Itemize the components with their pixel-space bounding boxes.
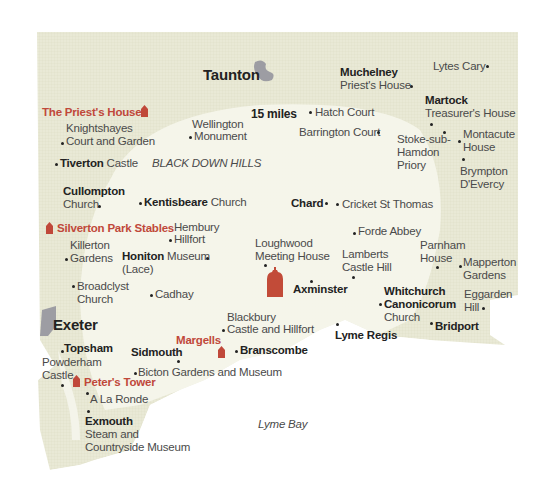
place-bicton: Bicton Gardens and Museum <box>138 366 282 379</box>
place-kentisbeare: Kentisbeare Church <box>144 196 247 209</box>
place-hatch-court: Hatch Court <box>315 106 374 119</box>
place-cricket-st-thomas: Cricket St Thomas <box>342 198 433 211</box>
place-honiton: Honiton Museum <box>122 250 210 263</box>
place-honiton-bold: Honiton <box>122 250 164 262</box>
place-bridport: Bridport <box>435 320 479 333</box>
place-lamberts-2: Castle Hill <box>342 261 392 274</box>
place-brympton-2: D'Evercy <box>460 178 504 191</box>
place-exmouth-3: Countryside Museum <box>85 441 190 454</box>
region-black-down-hills: BLACK DOWN HILLS <box>152 157 261 170</box>
place-stoke-sub-hamdon: Stoke-sub- <box>397 133 451 146</box>
place-exmouth-2: Steam and <box>85 428 139 441</box>
place-eggarden-2: Hill <box>464 301 479 314</box>
place-killerton-2: Gardens <box>70 252 113 265</box>
place-broadclyst: Broadclyst <box>77 280 129 293</box>
featured-priests-house[interactable]: The Priest's House <box>42 106 141 119</box>
place-powderham: Powderham <box>42 356 102 369</box>
dot <box>222 329 225 332</box>
dot <box>169 239 172 242</box>
place-mapperton-2: Gardens <box>463 269 506 282</box>
dot <box>410 85 413 88</box>
dot <box>177 360 180 363</box>
place-cullompton-2: Church <box>63 198 99 211</box>
dot <box>462 158 465 161</box>
place-honiton-2: (Lace) <box>122 263 153 276</box>
meeting-house-icon <box>265 267 285 297</box>
place-stoke-sub-hamdon-3: Priory <box>397 159 426 172</box>
place-honiton-rest: Museum <box>164 250 210 262</box>
place-axminster: Axminster <box>293 283 347 296</box>
dot <box>264 264 267 267</box>
place-sidmouth: Sidmouth <box>131 346 182 359</box>
place-whitchurch-3: Church <box>384 311 420 324</box>
dot <box>353 232 356 235</box>
place-eggarden: Eggarden <box>464 288 512 301</box>
house-icon <box>217 345 226 358</box>
place-forde-abbey: Forde Abbey <box>358 225 421 238</box>
place-powderham-2: Castle <box>42 369 73 382</box>
place-whitchurch-2: Canonicorum <box>384 298 456 311</box>
town-exeter: Exeter <box>53 318 98 331</box>
town-taunton: Taunton <box>203 68 260 81</box>
place-stoke-sub-hamdon-2: Hamdon <box>397 146 439 159</box>
dot <box>150 294 153 297</box>
place-martock: Martock <box>425 94 468 107</box>
dot <box>352 276 355 279</box>
dot <box>336 203 339 206</box>
dot <box>482 307 485 310</box>
dot <box>86 392 89 395</box>
place-kentisbeare-bold: Kentisbeare <box>144 196 208 208</box>
dot <box>486 65 489 68</box>
place-martock-sub: Treasurer's House <box>425 107 515 120</box>
place-montacute-2: House <box>463 141 495 154</box>
dot <box>65 258 68 261</box>
place-a-la-ronde: A La Ronde <box>90 393 148 406</box>
dot <box>458 140 461 143</box>
dot <box>87 410 90 413</box>
place-branscombe: Branscombe <box>240 344 308 357</box>
dot <box>134 372 137 375</box>
place-topsham: Topsham <box>64 342 113 355</box>
place-lyme-regis: Lyme Regis <box>335 329 397 342</box>
place-blackbury-2: Castle and Hillfort <box>227 323 314 336</box>
place-chard: Chard <box>291 197 323 210</box>
dot <box>377 131 380 134</box>
dot <box>139 202 142 205</box>
place-cullompton: Cullompton <box>63 185 125 198</box>
place-loughwood-2: Meeting House <box>255 250 330 263</box>
place-muchelney: Muchelney <box>340 66 398 79</box>
dot <box>55 163 58 166</box>
place-killerton: Killerton <box>70 239 110 252</box>
place-tiverton-rest: Castle <box>104 157 138 169</box>
dot <box>430 322 433 325</box>
place-broadclyst-2: Church <box>77 293 113 306</box>
place-wellington-2: Monument <box>194 130 247 143</box>
place-kentisbeare-rest: Church <box>208 196 247 208</box>
dot <box>235 350 238 353</box>
dot <box>430 123 433 126</box>
place-parnham: Parnham <box>420 239 465 252</box>
place-whitchurch: Whitchurch <box>384 285 445 298</box>
place-parnham-2: House <box>420 252 452 265</box>
featured-silverton-park-stables[interactable]: Silverton Park Stables <box>57 222 174 235</box>
place-loughwood: Loughwood <box>255 237 313 250</box>
place-knightshayes: Knightshayes <box>66 122 133 135</box>
dot <box>61 384 64 387</box>
dot <box>189 136 192 139</box>
place-tiverton-bold: Tiverton <box>60 157 104 169</box>
dot <box>379 303 382 306</box>
place-knightshayes-2: Court and Garden <box>66 135 155 148</box>
place-exmouth: Exmouth <box>85 415 133 428</box>
place-brympton: Brympton <box>460 165 508 178</box>
dot <box>206 257 209 260</box>
place-lytes-cary: Lytes Cary <box>433 60 486 73</box>
house-icon <box>45 221 54 234</box>
dot <box>309 111 312 114</box>
place-cadhay: Cadhay <box>155 288 193 301</box>
featured-margells[interactable]: Margells <box>176 334 221 347</box>
house-icon <box>140 104 149 117</box>
place-lamberts: Lamberts <box>342 248 388 261</box>
dot <box>436 266 439 269</box>
radius-label: 15 miles <box>251 108 297 121</box>
dot <box>61 142 64 145</box>
